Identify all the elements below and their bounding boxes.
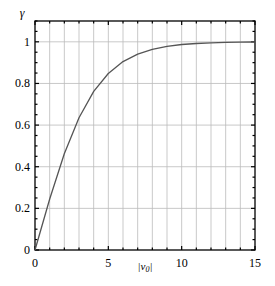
svg-text:0: 0 [24, 243, 30, 257]
svg-text:0.6: 0.6 [15, 118, 30, 132]
svg-text:5: 5 [105, 256, 111, 270]
svg-text:10: 10 [176, 256, 188, 270]
x-axis-label: |v0| [138, 260, 153, 274]
svg-text:0.8: 0.8 [15, 76, 30, 90]
svg-text:0.4: 0.4 [15, 160, 30, 174]
axis-ticks [35, 21, 255, 250]
svg-text:0.2: 0.2 [15, 201, 30, 215]
svg-text:1: 1 [24, 35, 30, 49]
chart: 00.20.40.60.81051015 γ |v0| [0, 0, 275, 286]
svg-text:15: 15 [249, 256, 261, 270]
data-series-line [35, 42, 255, 250]
grid-lines [35, 21, 255, 250]
svg-text:0: 0 [32, 256, 38, 270]
y-axis-label: γ [20, 6, 25, 20]
plot-frame [35, 21, 255, 250]
